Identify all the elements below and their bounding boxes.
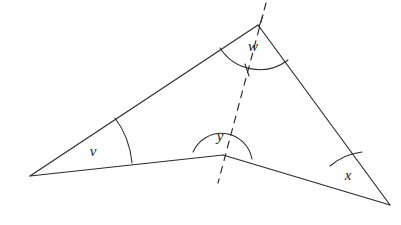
- angle-label-x: x: [344, 167, 352, 183]
- angle-arc-x: [330, 152, 362, 166]
- dashed-transversal: [218, 3, 266, 183]
- edge-left-to-top: [30, 25, 258, 176]
- tick-top-dashed: [259, 15, 263, 27]
- edge-top-to-right: [258, 25, 390, 205]
- angle-label-w: w: [248, 38, 258, 54]
- edge-left-to-bend: [30, 155, 223, 176]
- angle-label-y: y: [215, 128, 224, 144]
- angle-arc-v: [115, 118, 132, 163]
- edge-bend-to-right: [223, 155, 390, 205]
- geometry-diagram: Triangle with transversal dashed line an…: [0, 0, 401, 225]
- angle-label-v: v: [90, 143, 97, 159]
- diagram-canvas: Triangle with transversal dashed line an…: [0, 0, 401, 225]
